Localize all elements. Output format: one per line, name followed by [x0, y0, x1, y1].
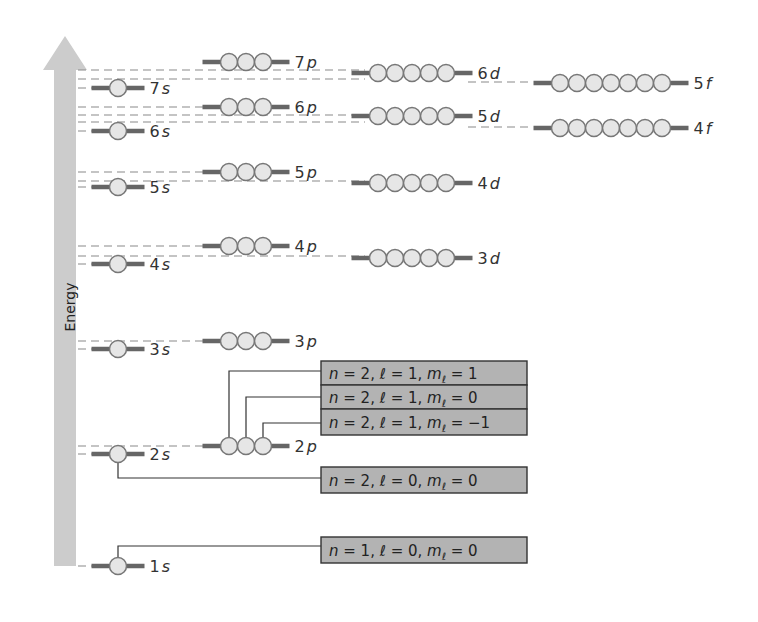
orbital-circle-icon — [238, 99, 255, 116]
quantum-number-text: n = 1, ℓ = 0, mℓ = 0 — [329, 542, 478, 562]
orbital-circle-icon — [569, 120, 586, 137]
orbital-circle-icon — [110, 341, 127, 358]
orbital-circle-icon — [110, 446, 127, 463]
orbital-circle-icon — [438, 65, 455, 82]
orbital-circle-icon — [238, 54, 255, 71]
sublevel-label: 5f — [694, 74, 714, 93]
quantum-number-box: n = 2, ℓ = 1, mℓ = −1 — [321, 409, 527, 435]
sublevel-label: 4f — [694, 119, 714, 138]
orbital-circle-icon — [387, 108, 404, 125]
sublevel-6d: 6d — [352, 64, 501, 83]
orbital-circle-icon — [255, 438, 272, 455]
sublevel-5d: 5d — [352, 107, 501, 126]
sublevel-4s: 4s — [92, 255, 171, 274]
orbital-circle-icon — [110, 179, 127, 196]
orbital-circle-icon — [421, 108, 438, 125]
orbital-circle-icon — [620, 75, 637, 92]
sublevel-label: 5p — [295, 163, 317, 182]
orbital-circle-icon — [438, 108, 455, 125]
orbital-circle-icon — [603, 75, 620, 92]
sublevel-label: 5d — [478, 107, 501, 126]
orbital-circle-icon — [221, 333, 238, 350]
orbital-circle-icon — [620, 120, 637, 137]
orbital-circle-icon — [370, 108, 387, 125]
orbital-circle-icon — [221, 164, 238, 181]
sublevel-4f: 4f — [534, 119, 714, 138]
orbital-circle-icon — [110, 558, 127, 575]
orbital-circle-icon — [221, 438, 238, 455]
orbital-circle-icon — [110, 80, 127, 97]
orbital-circle-icon — [387, 175, 404, 192]
sublevel-1s: 1s — [92, 557, 171, 576]
orbital-circle-icon — [404, 65, 421, 82]
orbital-circle-icon — [421, 250, 438, 267]
sublevel-6s: 6s — [92, 122, 171, 141]
orbital-circle-icon — [238, 238, 255, 255]
orbital-circle-icon — [221, 99, 238, 116]
orbital-circle-icon — [569, 75, 586, 92]
orbital-circle-icon — [586, 75, 603, 92]
quantum-number-box: n = 2, ℓ = 1, mℓ = 1 — [321, 361, 527, 385]
orbital-circle-icon — [238, 333, 255, 350]
orbital-circle-icon — [255, 164, 272, 181]
orbital-circle-icon — [421, 175, 438, 192]
sublevel-label: 3p — [295, 332, 317, 351]
sublevel-label: 1s — [150, 557, 171, 576]
sublevel-4d: 4d — [352, 174, 501, 193]
orbital-sublevels: 1s2s2p3s3p4s4p3d5s5p4d6s6p5d4f7s7p6d5f — [92, 53, 714, 576]
orbital-circle-icon — [370, 175, 387, 192]
orbital-circle-icon — [387, 250, 404, 267]
orbital-circle-icon — [654, 120, 671, 137]
orbital-circle-icon — [387, 65, 404, 82]
orbital-circle-icon — [438, 175, 455, 192]
sublevel-3s: 3s — [92, 340, 171, 359]
sublevel-label: 2p — [295, 437, 317, 456]
sublevel-2p: 2p — [203, 437, 317, 456]
sublevel-5f: 5f — [534, 74, 714, 93]
orbital-circle-icon — [586, 120, 603, 137]
orbital-circle-icon — [404, 175, 421, 192]
sublevel-label: 6s — [150, 122, 171, 141]
energy-axis-label: Energy — [62, 282, 78, 331]
orbital-circle-icon — [438, 250, 455, 267]
connector-line — [246, 397, 321, 438]
orbital-circle-icon — [552, 120, 569, 137]
quantum-number-text: n = 2, ℓ = 1, mℓ = −1 — [329, 414, 490, 434]
sublevel-label: 4p — [295, 237, 317, 256]
quantum-number-box: n = 1, ℓ = 0, mℓ = 0 — [321, 537, 527, 563]
orbital-circle-icon — [637, 75, 654, 92]
orbital-circle-icon — [110, 256, 127, 273]
orbital-circle-icon — [238, 438, 255, 455]
sublevel-3d: 3d — [352, 249, 501, 268]
sublevel-4p: 4p — [203, 237, 317, 256]
connector-line — [263, 423, 321, 438]
orbital-circle-icon — [255, 54, 272, 71]
sublevel-7p: 7p — [203, 53, 317, 72]
sublevel-label: 7s — [150, 79, 171, 98]
quantum-number-text: n = 2, ℓ = 0, mℓ = 0 — [329, 472, 478, 492]
quantum-number-box: n = 2, ℓ = 0, mℓ = 0 — [321, 467, 527, 493]
sublevel-label: 2s — [150, 445, 171, 464]
connector-line — [118, 546, 321, 558]
orbital-circle-icon — [255, 99, 272, 116]
orbital-circle-icon — [552, 75, 569, 92]
orbital-circle-icon — [421, 65, 438, 82]
orbital-circle-icon — [221, 238, 238, 255]
orbital-circle-icon — [255, 238, 272, 255]
orbital-circle-icon — [654, 75, 671, 92]
orbital-circle-icon — [370, 250, 387, 267]
sublevel-label: 3d — [478, 249, 501, 268]
sublevel-3p: 3p — [203, 332, 317, 351]
sublevel-label: 7p — [295, 53, 317, 72]
orbital-circle-icon — [221, 54, 238, 71]
orbital-circle-icon — [238, 164, 255, 181]
orbital-energy-diagram: Energy 1s2s2p3s3p4s4p3d5s5p4d6s6p5d4f7s7… — [0, 0, 758, 622]
orbital-circle-icon — [404, 250, 421, 267]
quantum-number-boxes: n = 2, ℓ = 1, mℓ = 1n = 2, ℓ = 1, mℓ = 0… — [321, 361, 527, 563]
sublevel-label: 6p — [295, 98, 317, 117]
sublevel-label: 4s — [150, 255, 171, 274]
quantum-number-box: n = 2, ℓ = 1, mℓ = 0 — [321, 385, 527, 409]
quantum-number-text: n = 2, ℓ = 1, mℓ = 1 — [329, 365, 478, 385]
sublevel-6p: 6p — [203, 98, 317, 117]
orbital-circle-icon — [255, 333, 272, 350]
